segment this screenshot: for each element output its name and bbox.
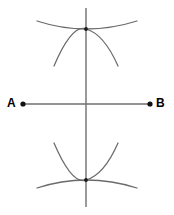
lower-intersection-point	[84, 178, 88, 182]
point-b-dot	[147, 101, 152, 106]
point-a-dot	[20, 101, 25, 106]
construction-canvas	[0, 0, 174, 215]
geometry-figure: A B	[0, 0, 174, 215]
point-b-label: B	[156, 97, 165, 109]
point-a-label: A	[7, 97, 16, 109]
upper-intersection-point	[84, 27, 88, 31]
